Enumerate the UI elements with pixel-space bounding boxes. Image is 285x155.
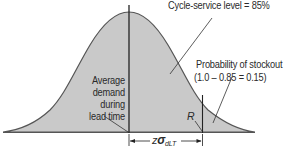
cycle-service-level-label: Cycle-service level = 85%: [168, 0, 270, 11]
average-line-4: lead time: [72, 110, 125, 122]
reorder-point-label: R: [187, 110, 194, 122]
stockout-probability-title: Probability of stockout: [196, 58, 282, 70]
sigma-subscript: dLT: [165, 140, 176, 147]
average-line-2: demand: [72, 86, 125, 98]
arrowhead-right: [197, 139, 202, 143]
stockout-leader: [213, 77, 232, 123]
average-line-3: during: [72, 98, 125, 110]
sigma-symbol: σ: [157, 133, 165, 147]
average-demand-label: Average demand during lead time: [72, 74, 125, 122]
average-line-1: Average: [72, 74, 125, 86]
stockout-probability-formula: (1.0 – 0.85 = 0.15): [194, 71, 266, 83]
z-sigma-label: zσdLT: [152, 134, 176, 150]
arrowhead-left: [130, 139, 135, 143]
